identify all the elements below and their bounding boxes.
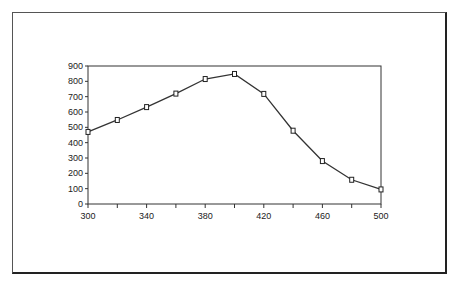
y-tick-label: 0 [78,199,83,209]
x-tick-label: 300 [80,211,95,221]
series-line [88,74,381,189]
x-tick-label: 420 [256,211,271,221]
data-point-marker [233,71,237,76]
data-point-marker [262,91,266,96]
data-point-marker [320,159,324,164]
y-tick-label: 900 [68,61,83,71]
data-point-marker [291,128,295,133]
y-tick-label: 200 [68,168,83,178]
y-axis-ticks: 0100200300400500600700800900 [68,61,88,209]
data-point-marker [115,117,119,122]
data-point-marker [203,77,207,82]
y-tick-label: 700 [68,92,83,102]
data-series [86,71,383,191]
data-point-marker [350,177,354,182]
y-tick-label: 800 [68,76,83,86]
x-tick-label: 340 [139,211,154,221]
x-tick-label: 460 [315,211,330,221]
data-point-marker [86,129,90,134]
y-tick-label: 100 [68,184,83,194]
y-tick-label: 600 [68,107,83,117]
x-tick-label: 380 [198,211,213,221]
y-tick-label: 500 [68,122,83,132]
x-tick-label: 500 [373,211,388,221]
line-chart: 0100200300400500600700800900 30034038042… [0,0,458,282]
data-point-marker [379,187,383,192]
plot-area [88,66,381,204]
y-tick-label: 300 [68,153,83,163]
x-axis-ticks: 300340380420460500 [80,204,388,221]
axes [88,66,381,204]
data-point-marker [145,105,149,110]
y-tick-label: 400 [68,138,83,148]
data-point-marker [174,91,178,96]
